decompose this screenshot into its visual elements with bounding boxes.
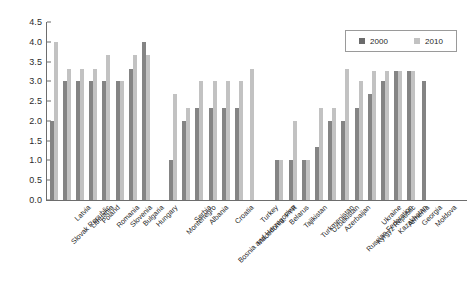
bar-2000[interactable] <box>422 81 426 200</box>
bar-2010[interactable] <box>186 108 190 200</box>
y-tick-label: 2.0 <box>29 116 47 126</box>
bar-category[interactable] <box>60 22 73 200</box>
bar-2010[interactable] <box>199 81 203 200</box>
legend-swatch-2000-icon <box>359 38 365 44</box>
bar-2010[interactable] <box>67 69 71 200</box>
bar-2010[interactable] <box>173 94 177 200</box>
bar-2010[interactable] <box>93 69 97 200</box>
bar-2010[interactable] <box>146 55 150 200</box>
bar-category[interactable] <box>100 22 113 200</box>
group-gap <box>259 22 273 200</box>
y-tick-label: 1.0 <box>29 155 47 165</box>
bar-category[interactable] <box>139 22 152 200</box>
bar-2010[interactable] <box>306 160 310 200</box>
bar-category[interactable] <box>326 22 339 200</box>
y-tick-label: 3.0 <box>29 76 47 86</box>
bar-2010[interactable] <box>279 160 283 200</box>
bar-chart: 4.54.03.53.02.52.01.51.00.50.0 Slovak Re… <box>0 0 473 297</box>
bar-category[interactable] <box>286 22 299 200</box>
bar-2010[interactable] <box>398 71 402 200</box>
bar-category[interactable] <box>312 22 325 200</box>
bar-category[interactable] <box>47 22 60 200</box>
y-tick-label: 4.0 <box>29 37 47 47</box>
bar-2010[interactable] <box>226 81 230 200</box>
x-axis-labels: Slovak RepublicLatviaLithuaniaPolandRoma… <box>47 203 467 297</box>
bar-category[interactable] <box>232 22 245 200</box>
bar-2010[interactable] <box>345 69 349 200</box>
bar-2010[interactable] <box>359 81 363 200</box>
y-tick-label: 3.5 <box>29 57 47 67</box>
bar-category[interactable] <box>87 22 100 200</box>
x-axis-line <box>46 200 467 201</box>
bar-category[interactable] <box>273 22 286 200</box>
y-tick-label: 1.5 <box>29 136 47 146</box>
bar-2010[interactable] <box>239 81 243 200</box>
bar-category[interactable] <box>193 22 206 200</box>
bar-2010[interactable] <box>372 71 376 200</box>
bar-2010[interactable] <box>106 55 110 200</box>
bar-category[interactable] <box>113 22 126 200</box>
bar-category[interactable] <box>219 22 232 200</box>
y-tick-label: 4.5 <box>29 17 47 27</box>
bar-2010[interactable] <box>411 71 415 200</box>
legend-label-2000: 2000 <box>370 37 388 46</box>
bar-category[interactable] <box>246 22 259 200</box>
bar-category[interactable] <box>206 22 219 200</box>
chart-legend: 2000 2010 <box>345 30 457 52</box>
bar-2010[interactable] <box>120 81 124 200</box>
bar-2010[interactable] <box>385 71 389 200</box>
legend-swatch-2010-icon <box>414 38 420 44</box>
bar-category[interactable] <box>126 22 139 200</box>
bar-category[interactable] <box>167 22 180 200</box>
bar-2010[interactable] <box>80 69 84 200</box>
bar-group-2 <box>167 22 259 200</box>
x-tick-label: Croatia <box>233 203 256 226</box>
bar-2010[interactable] <box>332 108 336 200</box>
y-tick-label: 2.5 <box>29 96 47 106</box>
bar-2010[interactable] <box>293 121 297 200</box>
bar-2010[interactable] <box>319 108 323 200</box>
bar-2010[interactable] <box>133 55 137 200</box>
bar-category[interactable] <box>73 22 86 200</box>
y-tick-label: 0.5 <box>29 175 47 185</box>
group-gap <box>153 22 167 200</box>
bar-2010[interactable] <box>213 81 217 200</box>
y-tick-label: 0.0 <box>29 195 47 205</box>
bar-category[interactable] <box>299 22 312 200</box>
legend-label-2010: 2010 <box>425 37 443 46</box>
bar-2010[interactable] <box>54 42 58 200</box>
bar-2010[interactable] <box>250 69 254 200</box>
bar-category[interactable] <box>180 22 193 200</box>
bar-group-1 <box>47 22 153 200</box>
legend-item-2010: 2010 <box>414 37 443 46</box>
legend-item-2000: 2000 <box>359 37 388 46</box>
